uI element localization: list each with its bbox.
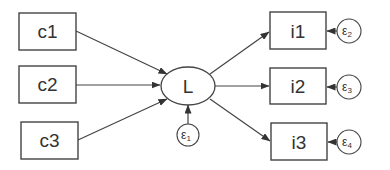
node-i2: i2: [270, 68, 326, 104]
node-e1: ε1: [177, 124, 199, 146]
latent-label: L: [183, 76, 194, 97]
node-e4: ε4: [337, 130, 361, 154]
node-e3: ε3: [337, 75, 361, 99]
edge-L-to-i3: [210, 99, 270, 141]
i3-label: i3: [292, 132, 307, 153]
c1-label: c1: [37, 21, 57, 42]
node-c2: c2: [19, 66, 76, 103]
e3-subscript: 3: [347, 86, 352, 95]
edge-L-to-i1: [210, 32, 269, 74]
edge-c3-to-L: [78, 99, 167, 140]
node-c1: c1: [19, 13, 76, 50]
c2-label: c2: [37, 74, 57, 95]
i2-label: i2: [291, 76, 306, 97]
sem-diagram: c1 c2 c3 L ε1 i1 i2 i3 ε2: [0, 0, 390, 170]
node-L: L: [161, 67, 215, 105]
e4-subscript: 4: [347, 141, 352, 150]
node-e2: ε2: [337, 19, 361, 43]
e2-subscript: 2: [347, 30, 352, 39]
i1-label: i1: [291, 21, 306, 42]
node-c3: c3: [21, 122, 78, 159]
edge-c1-to-L: [76, 31, 167, 74]
node-i3: i3: [271, 123, 327, 160]
e1-subscript: 1: [186, 134, 191, 143]
c3-label: c3: [39, 130, 59, 151]
node-i1: i1: [270, 12, 326, 49]
